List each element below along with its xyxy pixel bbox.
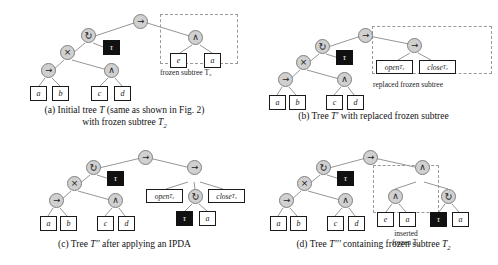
- open-label: open: [155, 192, 170, 201]
- node-sequence-replaced: →: [407, 38, 422, 53]
- leaf-b: b: [60, 216, 77, 231]
- leaf-tau: τ: [103, 40, 120, 55]
- leaf-a: a: [30, 86, 47, 101]
- leaf-d: d: [114, 86, 131, 101]
- node-xor: ×: [297, 176, 312, 191]
- close-superscript: T₂: [232, 193, 237, 199]
- open-label: open: [385, 63, 400, 72]
- annotation-frozen-subtree-a: frozen subtree T₂: [160, 68, 212, 77]
- panel-d: → ↻ × → ∧ ∧ ∧ ↻ τ a b c d e a τ a insert…: [249, 133, 498, 265]
- leaf-a-frozen: a: [204, 53, 221, 68]
- node-sequence-inner: →: [41, 63, 56, 78]
- node-loop-inserted: ↻: [188, 189, 203, 204]
- leaf-tau: τ: [336, 50, 353, 65]
- caption-a-line2: with frozen subtree T2: [82, 117, 166, 127]
- leaf-e-frozen: e: [170, 53, 187, 68]
- leaf-tau: τ: [337, 171, 354, 186]
- node-sequence-inner: →: [279, 193, 294, 208]
- close-superscript: T₂: [443, 64, 448, 70]
- caption-c-text: (c) Tree T′′ after applying an IPDA: [58, 239, 191, 249]
- leaf-open-t2: openT₂: [146, 189, 183, 203]
- annotation-inserted-line1: inserted: [371, 229, 441, 238]
- leaf-b: b: [290, 216, 307, 231]
- leaf-b: b: [52, 86, 69, 101]
- figure-tree-transformations: → ↻ × → ∧ ∧ τ a b c d e a frozen subtree…: [0, 0, 498, 265]
- node-xor: ×: [67, 176, 82, 191]
- open-superscript: T₂: [399, 64, 404, 70]
- leaf-close-t2: closeT₂: [208, 189, 245, 203]
- node-loop: ↻: [316, 160, 331, 175]
- leaf-tau: τ: [107, 171, 124, 186]
- node-loop: ↻: [315, 39, 330, 54]
- caption-b: (b) Tree T′ with replaced frozen subtree: [249, 110, 498, 122]
- leaf-d: d: [347, 95, 364, 110]
- node-sequence-inner: →: [278, 72, 293, 87]
- node-sequence-replaced: →: [187, 160, 202, 175]
- panel-b: → ↻ × → ∧ → τ a b c d openT₂ closeT₂ rep…: [249, 0, 498, 133]
- node-and-frozen: ∧: [388, 189, 403, 204]
- leaf-a: a: [40, 216, 57, 231]
- leaf-open-t2: openT₂: [376, 60, 413, 74]
- leaf-c: c: [326, 95, 343, 110]
- annotation-replaced-frozen-subtree: replaced frozen subtree: [373, 80, 443, 89]
- node-and-inner: ∧: [104, 63, 119, 78]
- close-label: close: [427, 63, 442, 72]
- leaf-a-inserted: a: [452, 212, 469, 227]
- node-loop: ↻: [86, 160, 101, 175]
- node-xor: ×: [296, 55, 311, 70]
- node-and-frozen: ∧: [188, 30, 203, 45]
- node-xor: ×: [60, 45, 75, 60]
- node-sequence-inner: →: [49, 193, 64, 208]
- panel-c: → ↻ × → ∧ → ↻ τ a b c d openT₂ closeT₂ τ…: [0, 133, 249, 265]
- caption-a: (a) Initial tree T (same as shown in Fig…: [0, 104, 249, 132]
- leaf-close-t2: closeT₂: [419, 60, 456, 74]
- node-and-right: ∧: [415, 160, 430, 175]
- panel-a: → ↻ × → ∧ ∧ τ a b c d e a frozen subtree…: [0, 0, 249, 133]
- caption-d-text: (d) Tree T′′′ containing frozen subtree …: [296, 239, 450, 249]
- close-label: close: [216, 192, 231, 201]
- node-sequence-root: →: [363, 150, 378, 165]
- leaf-d: d: [118, 216, 135, 231]
- leaf-c: c: [91, 86, 108, 101]
- caption-c: (c) Tree T′′ after applying an IPDA: [0, 238, 249, 250]
- frozen-region-d: [373, 165, 439, 213]
- leaf-d: d: [348, 216, 365, 231]
- leaf-c: c: [327, 216, 344, 231]
- node-and-inner: ∧: [108, 193, 123, 208]
- node-sequence-root: →: [138, 150, 153, 165]
- leaf-a: a: [269, 95, 286, 110]
- node-and-inner: ∧: [338, 193, 353, 208]
- node-and-inner: ∧: [337, 72, 352, 87]
- leaf-a-inserted: a: [199, 211, 216, 226]
- leaf-c: c: [97, 216, 114, 231]
- leaf-a: a: [270, 216, 287, 231]
- caption-b-text: (b) Tree T′ with replaced frozen subtree: [298, 111, 448, 121]
- leaf-tau-inserted: τ: [176, 211, 193, 226]
- caption-d: (d) Tree T′′′ containing frozen subtree …: [249, 238, 498, 254]
- caption-a-line1: (a) Initial tree T (same as shown in Fig…: [45, 105, 205, 115]
- open-superscript: T₂: [169, 193, 174, 199]
- leaf-b: b: [289, 95, 306, 110]
- node-loop: ↻: [81, 28, 96, 43]
- node-sequence-root: →: [358, 28, 373, 43]
- node-loop-inserted: ↻: [441, 189, 456, 204]
- node-sequence-root: →: [133, 14, 148, 29]
